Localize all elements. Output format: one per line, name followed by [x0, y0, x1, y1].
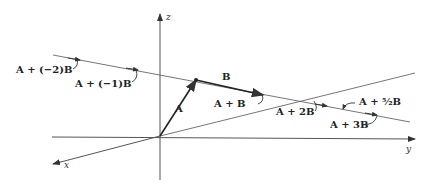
y-axis [52, 137, 415, 139]
label-a-plus-3b: A + 3B [330, 119, 369, 130]
vector-b-label: B [222, 71, 230, 82]
vector-a-label: A [175, 103, 183, 114]
label-a-minus-2b: A + (−2)B [16, 64, 72, 75]
label-a-plus-2b: A + 2B [276, 106, 315, 117]
vector-b [196, 80, 263, 95]
label-a-plus-b: A + B [214, 98, 246, 109]
x-axis-label: x [64, 160, 69, 170]
label-a-minus-1b: A + (−1)B [75, 78, 131, 89]
z-axis-label: z [166, 12, 171, 22]
y-axis-label: y [406, 144, 411, 154]
label-a-plus-5-2-b: A + ⁵⁄₂B [359, 96, 401, 107]
